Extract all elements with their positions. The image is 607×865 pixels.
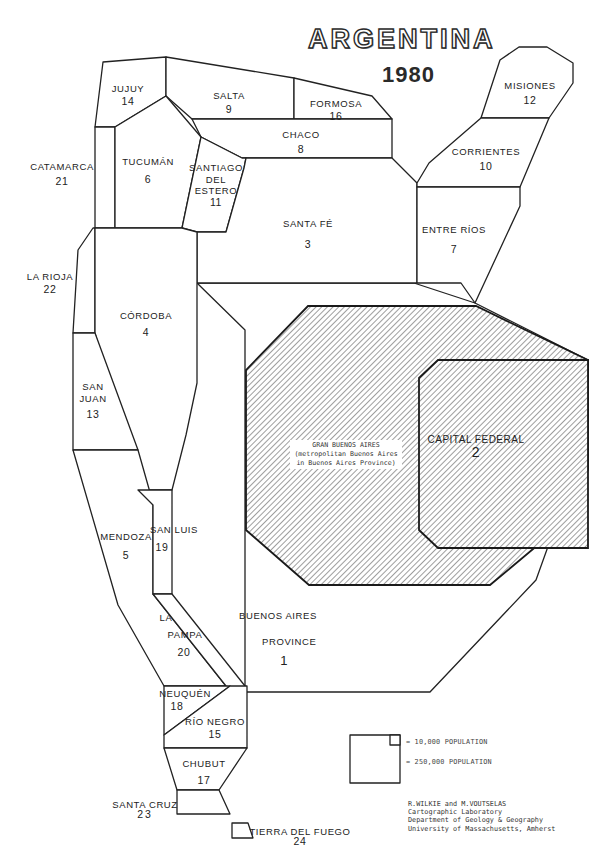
map-year: 1980	[382, 62, 435, 88]
legend-large-label: = 250,000 POPULATION	[406, 758, 492, 766]
credits-block: R.WILKIE and M.VOUTSELAS Cartographic La…	[408, 800, 555, 833]
province-la-rioja[interactable]	[73, 228, 95, 333]
label-formosa: FORMOSA 16	[310, 97, 362, 123]
label-tierra-del-fuego: TIERRA DEL FUEGO 24	[249, 826, 350, 847]
label-buenos-aires-province: PROVINCE 1	[262, 635, 316, 667]
label-misiones: MISIONES 12	[504, 79, 555, 107]
label-chaco: CHACO 8	[282, 128, 319, 156]
label-santiago-del-estero: SANTIAGO DEL ESTERO 11	[189, 162, 243, 208]
province-santa-cruz[interactable]	[177, 790, 230, 814]
label-san-juan: SAN JUAN 13	[79, 381, 106, 420]
label-entre-rios: ENTRE RÍOS 7	[422, 223, 486, 256]
label-salta: SALTA 9	[213, 89, 245, 116]
map-title: ARGENTINA	[308, 24, 496, 55]
legend-small-label: = 10,000 POPULATION	[406, 738, 488, 746]
label-la-rioja: LA RIOJA 22	[27, 270, 74, 296]
label-la-pampa: LA PAMPA 20	[174, 612, 203, 658]
gran-buenos-aires-note: GRAN BUENOS AIRES (metropolitan Buenos A…	[290, 440, 402, 469]
label-corrientes: CORRIENTES 10	[452, 145, 520, 173]
label-san-luis: SAN LUIS 19	[150, 523, 198, 554]
label-cordoba: CÓRDOBA 4	[120, 309, 172, 339]
label-rio-negro: RÍO NEGRO 15	[185, 715, 245, 741]
province-catamarca[interactable]	[95, 127, 115, 228]
legend-small-square	[390, 735, 400, 745]
label-tucuman: TUCUMÁN 6	[122, 155, 174, 186]
label-neuquen: NEUQUÉN 18	[159, 687, 211, 713]
label-jujuy: JUJUY 14	[112, 82, 145, 108]
label-santa-cruz: SANTA CRUZ 23	[112, 799, 177, 820]
label-catamarca: CATAMARCA 21	[30, 160, 94, 188]
label-chubut: CHUBUT 17	[182, 757, 225, 787]
label-capital-federal: CAPITAL FEDERAL 2	[416, 433, 536, 459]
label-buenos-aires-line1: BUENOS AIRES	[239, 609, 317, 622]
label-santa-fe: SANTA FÉ 3	[283, 217, 333, 251]
